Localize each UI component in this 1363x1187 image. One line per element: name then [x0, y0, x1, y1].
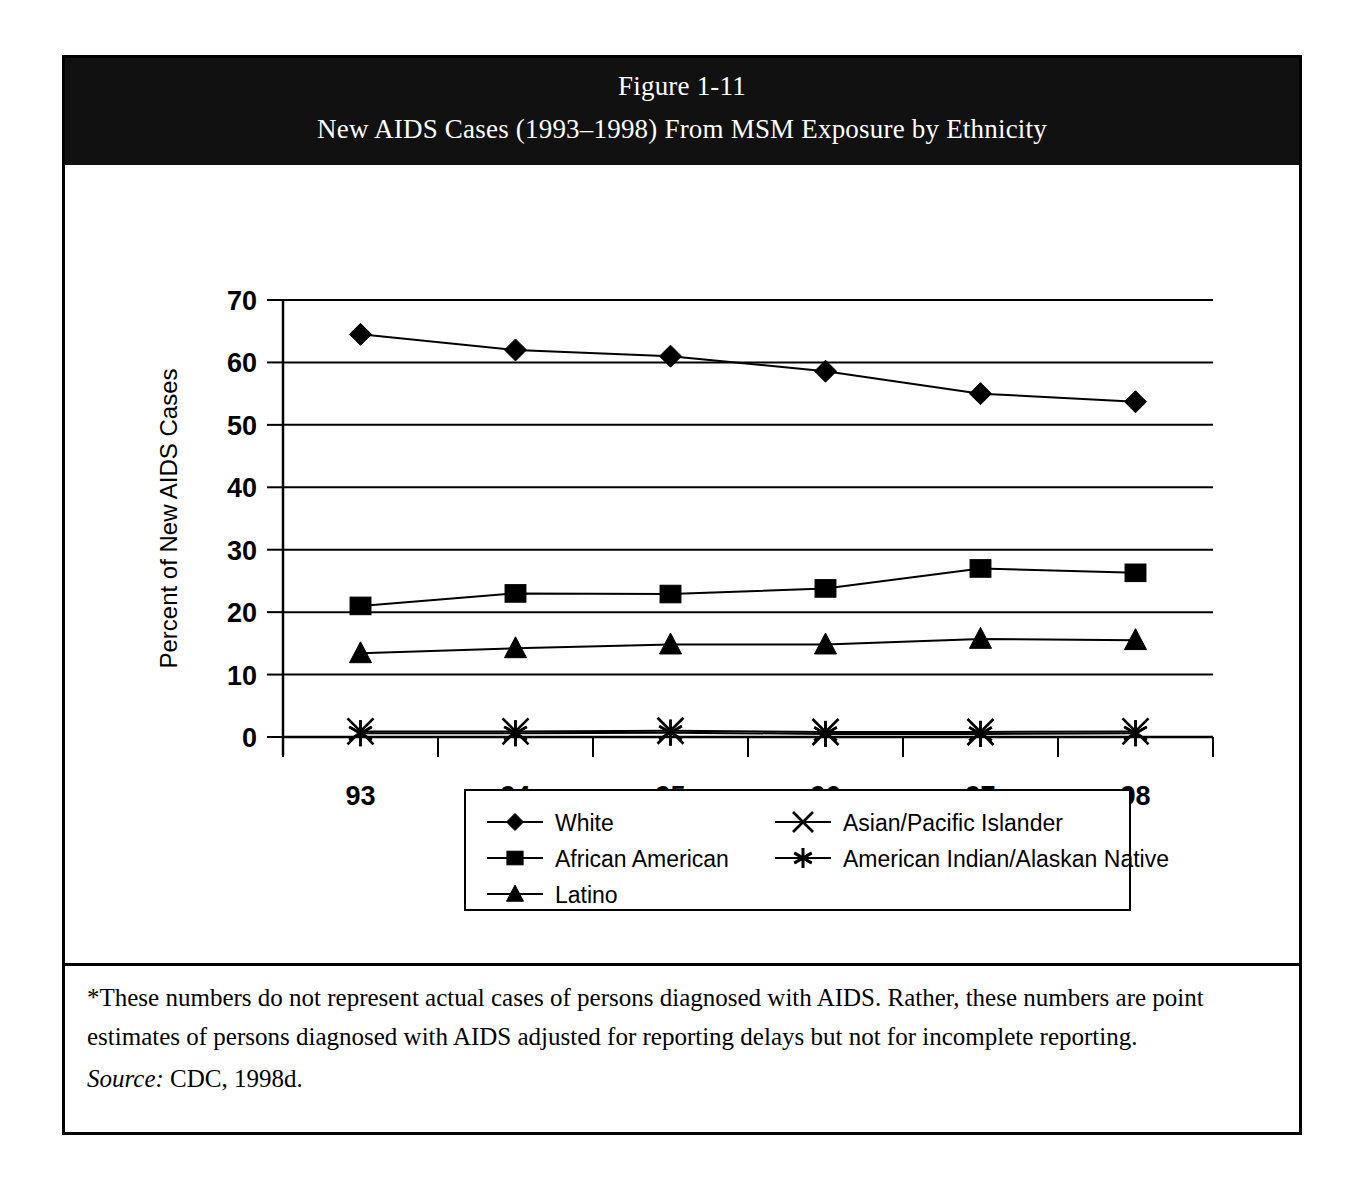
gridlines: 010203040506070 — [227, 286, 1213, 753]
legend-label: Asian/Pacific Islander — [843, 810, 1063, 836]
data-point-marker-square — [507, 851, 523, 865]
series-white — [350, 323, 1147, 412]
data-point-marker-diamond — [970, 383, 992, 405]
figure-number: Figure 1-11 — [65, 65, 1299, 107]
data-point-marker-diamond — [505, 339, 527, 361]
y-tick-label: 10 — [227, 661, 257, 691]
source-value: CDC, 1998d. — [170, 1065, 303, 1092]
data-point-marker-square — [505, 585, 526, 603]
series-line — [361, 334, 1136, 401]
data-point-marker-diamond — [350, 323, 372, 345]
figure-title-banner: Figure 1-11 New AIDS Cases (1993–1998) F… — [65, 58, 1299, 165]
data-point-marker-diamond — [815, 360, 837, 382]
data-point-marker-square — [660, 585, 681, 603]
data-point-marker-triangle — [660, 633, 682, 654]
footnote-divider — [65, 963, 1299, 966]
data-point-marker-square — [815, 580, 836, 598]
figure-title: New AIDS Cases (1993–1998) From MSM Expo… — [65, 107, 1299, 151]
line-chart: 010203040506070939495969798Year of Repor… — [65, 165, 1299, 965]
data-point-marker-diamond — [1125, 391, 1147, 413]
legend-label: African American — [555, 846, 729, 872]
footnote-block: *These numbers do not represent actual c… — [65, 968, 1299, 1098]
y-tick-label: 20 — [227, 598, 257, 628]
legend-label: Latino — [555, 882, 618, 908]
data-point-marker-square — [970, 560, 991, 578]
legend-label: White — [555, 810, 614, 836]
y-tick-label: 70 — [227, 286, 257, 316]
legend-label: American Indian/Alaskan Native — [843, 846, 1169, 872]
y-tick-label: 0 — [242, 723, 257, 753]
data-point-marker-diamond — [660, 345, 682, 367]
data-point-marker-square — [350, 597, 371, 615]
series-african-american — [350, 560, 1146, 615]
y-tick-label: 60 — [227, 348, 257, 378]
data-point-marker-square — [1125, 564, 1146, 582]
series-line — [361, 568, 1136, 605]
x-tick-label: 93 — [345, 781, 375, 811]
chart-legend: WhiteAfrican AmericanLatinoAsian/Pacific… — [465, 790, 1169, 910]
y-axis-title: Percent of New AIDS Cases — [155, 368, 182, 668]
series-line — [361, 733, 1136, 734]
series-line — [361, 639, 1136, 653]
y-tick-label: 50 — [227, 411, 257, 441]
footnote-text: *These numbers do not represent actual c… — [87, 978, 1277, 1056]
data-point-marker-triangle — [1125, 629, 1147, 650]
series-latino — [350, 627, 1147, 662]
y-tick-label: 40 — [227, 473, 257, 503]
series-line — [361, 731, 1136, 732]
data-point-marker-triangle — [970, 627, 992, 648]
source-line: Source: CDC, 1998d. — [87, 1059, 1277, 1098]
y-tick-label: 30 — [227, 536, 257, 566]
source-label: Source: — [87, 1065, 164, 1092]
chart-region: 010203040506070939495969798Year of Repor… — [65, 165, 1299, 965]
figure-frame: Figure 1-11 New AIDS Cases (1993–1998) F… — [62, 55, 1302, 1135]
